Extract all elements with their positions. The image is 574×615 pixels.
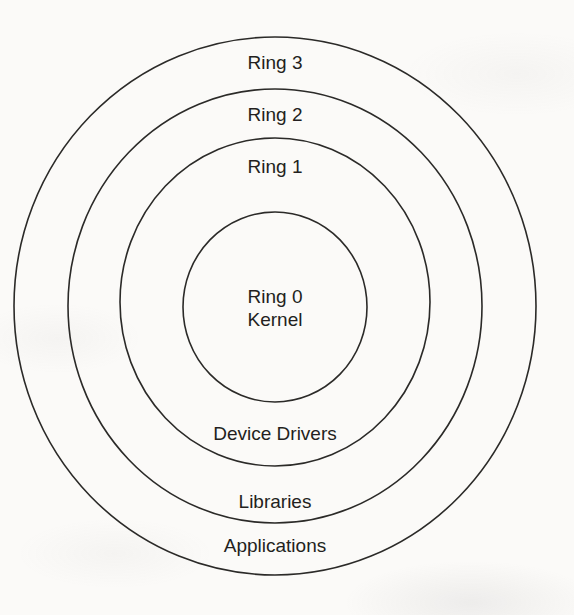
ring-1-label: Ring 1 [248,156,303,177]
ring-0-circle [183,212,367,402]
ring-0-sublabel: Kernel [248,309,303,330]
protection-rings-diagram: Ring 3 Ring 2 Ring 1 Ring 0 Kernel Devic… [0,0,574,615]
protection-rings-canvas: Ring 3 Ring 2 Ring 1 Ring 0 Kernel Devic… [0,0,574,615]
ring-1-content-label: Device Drivers [213,423,337,444]
ring-0-label: Ring 0 [248,286,303,307]
ring-2-label: Ring 2 [248,104,303,125]
ring-3-label: Ring 3 [248,52,303,73]
ring-2-content-label: Libraries [239,491,312,512]
ring-3-content-label: Applications [224,535,326,556]
